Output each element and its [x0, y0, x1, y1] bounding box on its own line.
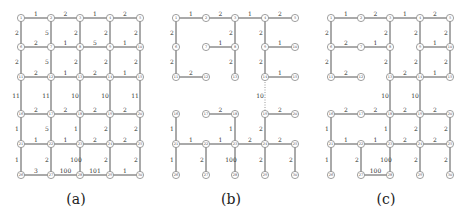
- svg-text:15: 15: [448, 75, 452, 79]
- node-23: 23: [386, 140, 393, 147]
- svg-text:18: 18: [78, 112, 82, 116]
- edge-weight: 2: [444, 58, 448, 65]
- svg-text:12: 12: [204, 75, 208, 79]
- node-25: 25: [136, 140, 143, 147]
- svg-text:26: 26: [329, 173, 333, 177]
- node-11: 11: [327, 73, 334, 80]
- node-1: 1: [172, 14, 179, 21]
- edge-weight: 2: [200, 156, 204, 163]
- edge-weight: 100: [380, 156, 392, 163]
- edge-weight: 2: [414, 125, 418, 132]
- edge-weight: 10: [256, 92, 264, 99]
- svg-text:29: 29: [108, 173, 112, 177]
- node-27: 27: [357, 171, 364, 178]
- edge-weight: 2: [444, 29, 448, 36]
- svg-text:9: 9: [264, 45, 266, 49]
- edge-weight: 1: [170, 125, 174, 132]
- svg-text:12: 12: [359, 75, 363, 79]
- svg-text:10: 10: [448, 45, 452, 49]
- node-17: 17: [202, 110, 209, 117]
- svg-text:6: 6: [20, 45, 22, 49]
- svg-text:26: 26: [19, 173, 23, 177]
- edge-weight: 1: [34, 136, 38, 143]
- node-30: 30: [291, 171, 298, 178]
- node-24: 24: [106, 140, 113, 147]
- edge-weight: 2: [219, 106, 223, 113]
- edge-weight: 2: [34, 106, 38, 113]
- edge-weight: 2: [229, 29, 233, 36]
- edge-weight: 2: [374, 106, 378, 113]
- node-4: 4: [261, 14, 268, 21]
- svg-text:2: 2: [50, 16, 52, 20]
- edge-weight: 2: [248, 136, 252, 143]
- svg-text:19: 19: [263, 112, 267, 116]
- node-1: 1: [17, 14, 24, 21]
- node-22: 22: [357, 140, 364, 147]
- edge-weight: 2: [45, 156, 49, 163]
- edge-weight: 2: [123, 136, 127, 143]
- svg-text:11: 11: [174, 75, 178, 79]
- node-24: 24: [416, 140, 423, 147]
- svg-text:29: 29: [418, 173, 422, 177]
- svg-text:1: 1: [20, 16, 22, 20]
- svg-text:25: 25: [448, 142, 452, 146]
- edge-weight: 101: [89, 167, 100, 174]
- edge-weight: 11: [12, 92, 20, 99]
- edge-weight: 1: [403, 10, 407, 17]
- edge-weight: 1: [374, 136, 378, 143]
- node-16: 16: [17, 110, 24, 117]
- edge-weight: 2: [74, 58, 78, 65]
- svg-text:19: 19: [418, 112, 422, 116]
- svg-text:13: 13: [78, 75, 82, 79]
- edge-weight: 100: [70, 156, 82, 163]
- svg-text:27: 27: [49, 173, 53, 177]
- node-14: 14: [106, 73, 113, 80]
- edge-weight: 1: [278, 69, 282, 76]
- node-22: 22: [202, 140, 209, 147]
- svg-text:5: 5: [139, 16, 141, 20]
- node-3: 3: [231, 14, 238, 21]
- edge-weight: 100: [225, 156, 237, 163]
- node-28: 28: [386, 171, 393, 178]
- node-23: 23: [231, 140, 238, 147]
- edge-weight: 1: [344, 10, 348, 17]
- node-23: 23: [76, 140, 83, 147]
- svg-text:30: 30: [293, 173, 297, 177]
- svg-text:24: 24: [108, 142, 113, 146]
- edge-weight: 2: [189, 69, 193, 76]
- node-3: 3: [76, 14, 83, 21]
- edge-weight: 2: [219, 10, 223, 17]
- svg-text:22: 22: [49, 142, 53, 146]
- svg-text:20: 20: [138, 112, 142, 116]
- svg-text:25: 25: [293, 142, 297, 146]
- svg-text:16: 16: [174, 112, 178, 116]
- edge-weight: 2: [93, 69, 97, 76]
- edge-weight: 1: [325, 156, 329, 163]
- svg-text:25: 25: [138, 142, 142, 146]
- edge-weight: 2: [134, 29, 138, 36]
- node-7: 7: [357, 43, 364, 50]
- svg-text:17: 17: [359, 112, 363, 116]
- edge-weight: 1: [189, 136, 193, 143]
- edge-weight: 5: [93, 39, 97, 46]
- node-9: 9: [261, 43, 268, 50]
- svg-text:23: 23: [233, 142, 237, 146]
- edge-weight: 2: [229, 58, 233, 65]
- node-26: 26: [172, 171, 179, 178]
- node-19: 19: [106, 110, 113, 117]
- edge-weight: 11: [131, 92, 139, 99]
- node-2: 2: [202, 14, 209, 21]
- edge-weight: 1: [384, 125, 388, 132]
- node-24: 24: [261, 140, 268, 147]
- svg-text:29: 29: [263, 173, 267, 177]
- svg-text:30: 30: [448, 173, 452, 177]
- node-21: 21: [172, 140, 179, 147]
- svg-text:14: 14: [263, 75, 268, 79]
- edge-weight: 2: [123, 10, 127, 17]
- edge-weight: 2: [414, 58, 418, 65]
- svg-text:20: 20: [293, 112, 297, 116]
- node-16: 16: [172, 110, 179, 117]
- svg-text:14: 14: [418, 75, 423, 79]
- node-17: 17: [47, 110, 54, 117]
- edge-weight: 2: [64, 106, 68, 113]
